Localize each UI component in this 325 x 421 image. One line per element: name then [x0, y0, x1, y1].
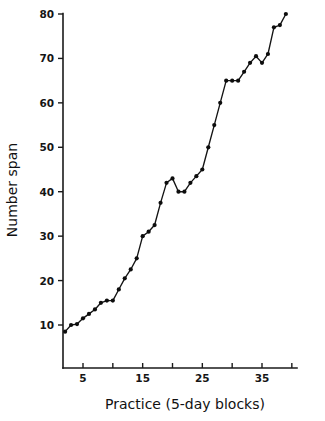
x-tick-label-35: 35: [255, 372, 270, 384]
data-point: [272, 25, 276, 29]
data-point: [63, 330, 67, 334]
y-tick-label-30: 30: [39, 230, 54, 242]
data-point: [248, 61, 252, 65]
data-point: [176, 190, 180, 194]
data-point: [206, 145, 210, 149]
data-point: [164, 181, 168, 185]
data-point: [284, 12, 288, 16]
data-point: [254, 54, 258, 58]
data-point: [123, 276, 127, 280]
y-tick-label-50: 50: [39, 141, 54, 153]
data-point: [170, 176, 174, 180]
data-point: [158, 201, 162, 205]
data-point: [135, 256, 139, 260]
data-point: [260, 61, 264, 65]
data-point: [230, 79, 234, 83]
x-axis-title: Practice (5-day blocks): [105, 396, 265, 412]
data-point: [200, 167, 204, 171]
x-axis-tick-labels: 5152535: [79, 372, 269, 384]
data-point: [266, 52, 270, 56]
data-point: [75, 322, 79, 326]
y-tick-label-70: 70: [39, 52, 54, 64]
data-point: [93, 307, 97, 311]
data-point: [87, 312, 91, 316]
y-tick-label-80: 80: [39, 8, 54, 20]
data-point: [129, 267, 133, 271]
y-tick-label-40: 40: [39, 186, 54, 198]
chart-figure: 1020304050607080 5152535 Practice (5-day…: [0, 0, 325, 421]
data-point: [69, 323, 73, 327]
data-point: [188, 181, 192, 185]
data-point: [99, 301, 103, 305]
data-point: [153, 223, 157, 227]
data-point: [81, 316, 85, 320]
data-point: [111, 298, 115, 302]
data-point: [141, 234, 145, 238]
series-line-number-span: [65, 14, 286, 332]
data-point: [105, 298, 109, 302]
data-point: [194, 174, 198, 178]
data-point: [218, 101, 222, 105]
data-point: [278, 23, 282, 27]
x-tick-label-15: 15: [135, 372, 150, 384]
data-point: [117, 287, 121, 291]
data-point: [147, 230, 151, 234]
y-axis-tick-labels: 1020304050607080: [39, 8, 54, 331]
series-markers-number-span: [63, 12, 288, 334]
data-point: [236, 79, 240, 83]
line-chart: 1020304050607080 5152535 Practice (5-day…: [0, 0, 325, 421]
data-point: [242, 70, 246, 74]
y-axis-title: Number span: [4, 143, 20, 237]
y-tick-label-10: 10: [39, 319, 54, 331]
y-tick-label-20: 20: [39, 275, 54, 287]
x-tick-label-5: 5: [79, 372, 86, 384]
data-point: [182, 190, 186, 194]
y-tick-label-60: 60: [39, 97, 54, 109]
data-point: [224, 79, 228, 83]
data-point: [212, 123, 216, 127]
data-series-group: [63, 12, 288, 334]
x-tick-label-25: 25: [195, 372, 210, 384]
